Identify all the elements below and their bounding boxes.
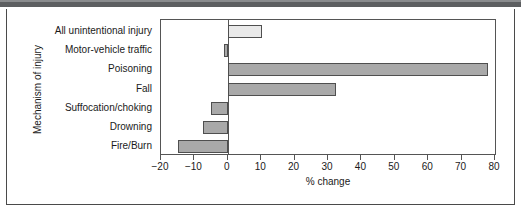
x-axis-tick-label: 20 bbox=[288, 161, 299, 172]
x-axis-tick-label: 70 bbox=[455, 161, 466, 172]
y-axis-tick-label: Fall bbox=[136, 83, 152, 94]
x-axis-tick-mark bbox=[461, 155, 462, 160]
x-axis-tick-mark bbox=[193, 155, 194, 160]
x-axis-tick-mark bbox=[327, 155, 328, 160]
bar-chart: Mechanism of injury All unintentional in… bbox=[0, 0, 521, 211]
x-axis-tick-mark bbox=[260, 155, 261, 160]
x-axis-tick-label: 10 bbox=[255, 161, 266, 172]
x-axis-tick-mark bbox=[494, 155, 495, 160]
y-axis-tick-label: All unintentional injury bbox=[55, 25, 152, 36]
bar bbox=[203, 121, 228, 134]
x-axis-tick-label: −10 bbox=[185, 161, 202, 172]
x-axis-tick-label: −20 bbox=[152, 161, 169, 172]
x-axis-tick-mark bbox=[427, 155, 428, 160]
bar bbox=[228, 63, 489, 76]
x-axis-tick-mark bbox=[160, 155, 161, 160]
x-axis-tick-label: 80 bbox=[488, 161, 499, 172]
bar bbox=[228, 25, 262, 38]
x-axis-tick-mark bbox=[227, 155, 228, 160]
x-axis-tick-label: 60 bbox=[422, 161, 433, 172]
x-axis-tick-mark bbox=[294, 155, 295, 160]
bar bbox=[178, 140, 228, 153]
plot-area bbox=[160, 19, 496, 155]
bar bbox=[211, 102, 228, 115]
bar bbox=[228, 83, 337, 96]
y-axis-tick-label: Poisoning bbox=[108, 63, 152, 74]
x-axis-title: % change bbox=[160, 176, 496, 187]
y-axis-tick-label: Suffocation/choking bbox=[65, 102, 152, 113]
bar bbox=[224, 44, 227, 57]
x-axis-tick-label: 40 bbox=[355, 161, 366, 172]
y-axis-tick-labels: All unintentional injuryMotor-vehicle tr… bbox=[10, 19, 156, 155]
x-axis-tick-label: 30 bbox=[321, 161, 332, 172]
y-axis-tick-label: Drowning bbox=[110, 121, 152, 132]
x-axis-tick-label: 50 bbox=[388, 161, 399, 172]
y-axis-tick-label: Motor-vehicle traffic bbox=[65, 44, 152, 55]
x-axis-tick-label: 0 bbox=[224, 161, 230, 172]
figure-page: Mechanism of injury All unintentional in… bbox=[0, 0, 521, 211]
x-axis-tick-mark bbox=[360, 155, 361, 160]
y-axis-tick-label: Fire/Burn bbox=[111, 140, 152, 151]
x-axis-tick-mark bbox=[394, 155, 395, 160]
